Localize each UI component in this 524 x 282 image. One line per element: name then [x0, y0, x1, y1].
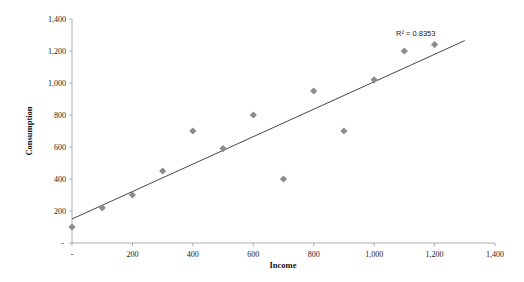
y-tick-label: 1,400 [48, 15, 66, 24]
y-tick-label: - [61, 239, 64, 248]
trendline [72, 41, 465, 219]
y-tick-label: 1,000 [48, 79, 66, 88]
y-tick-label: 600 [54, 143, 66, 152]
y-axis-ticks: -2004006008001,0001,2001,400 [48, 15, 72, 248]
data-points [68, 41, 438, 231]
data-point-diamond-icon [189, 127, 196, 134]
scatter-chart: -2004006008001,0001,2001,400 -2004006008… [0, 0, 524, 282]
x-tick-label: 400 [187, 250, 199, 259]
data-point-diamond-icon [340, 127, 347, 134]
data-point-diamond-icon [68, 223, 75, 230]
y-tick-label: 400 [54, 175, 66, 184]
data-point-diamond-icon [310, 87, 317, 94]
data-point-diamond-icon [159, 167, 166, 174]
x-tick-label: 1,200 [426, 250, 444, 259]
data-point-diamond-icon [99, 204, 106, 211]
y-tick-label: 200 [54, 207, 66, 216]
data-point-diamond-icon [401, 47, 408, 54]
x-tick-label: 600 [247, 250, 259, 259]
data-point-diamond-icon [431, 41, 438, 48]
r-squared-annotation: R² = 0.8353 [396, 29, 435, 38]
x-tick-label: 200 [126, 250, 138, 259]
x-axis-ticks: -2004006008001,0001,2001,400 [71, 243, 504, 259]
y-tick-label: 1,200 [48, 47, 66, 56]
x-axis-title: Income [270, 260, 297, 270]
data-point-diamond-icon [280, 175, 287, 182]
axes [72, 19, 495, 243]
y-tick-label: 800 [54, 111, 66, 120]
x-tick-label: 1,400 [486, 250, 504, 259]
x-tick-label: - [71, 250, 74, 259]
y-axis-title: Consumption [24, 106, 34, 155]
data-point-diamond-icon [371, 76, 378, 83]
x-tick-label: 1,000 [365, 250, 383, 259]
data-point-diamond-icon [250, 111, 257, 118]
x-tick-label: 800 [308, 250, 320, 259]
